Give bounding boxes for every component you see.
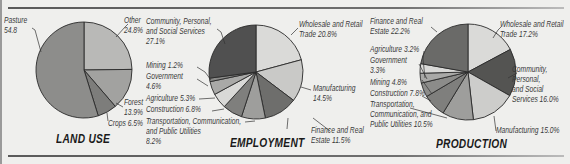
label-emp-agriculture: Agriculture 5.3% (146, 94, 195, 104)
label-emp-transport: Transportation, Communication, and Publi… (146, 117, 241, 147)
label-prod-construction: Construction 7.8% (370, 89, 425, 99)
label-emp-community: Community, Personal, and Social Services… (146, 17, 212, 47)
label-prod-community: Community, Personal, and Social Services… (512, 65, 559, 105)
label-prod-finance: Finance and Real Estate 22.2% (370, 17, 423, 37)
label-emp-wholesale: Wholesale and Retail Trade 20.8% (299, 20, 362, 40)
label-emp-government: Government 4.6% (146, 72, 183, 92)
title-land-use: LAND USE (56, 132, 110, 146)
label-prod-wholesale: Wholesale and Retail Trade 17.2% (500, 20, 563, 40)
label-emp-construction: Construction 6.8% (146, 105, 201, 115)
label-prod-government: Government 3.3% (370, 56, 407, 76)
label-emp-manufacturing: Manufacturing 14.5% (313, 84, 356, 104)
label-prod-manufacturing: Manufacturing 15.0% (496, 126, 559, 136)
label-emp-finance: Finance and Real Estate 11.5% (311, 126, 364, 146)
pie-slice (421, 24, 468, 72)
title-production: PRODUCTION (436, 137, 507, 151)
label-prod-mining: Mining 4.8% (370, 78, 407, 88)
label-forest: Forest 13.9% (124, 98, 143, 118)
label-pasture: Pasture 54.8 (4, 16, 27, 36)
label-other: Other 24.8% (124, 16, 143, 36)
label-prod-agriculture: Agriculture 3.2% (370, 45, 419, 55)
label-prod-transport: Transportation, Communication, and Publi… (370, 100, 433, 130)
title-employment: EMPLOYMENT (230, 136, 305, 150)
pie-slice (209, 25, 256, 78)
label-crops: Crops 6.5% (108, 119, 143, 129)
label-emp-mining: Mining 1.2% (146, 61, 183, 71)
